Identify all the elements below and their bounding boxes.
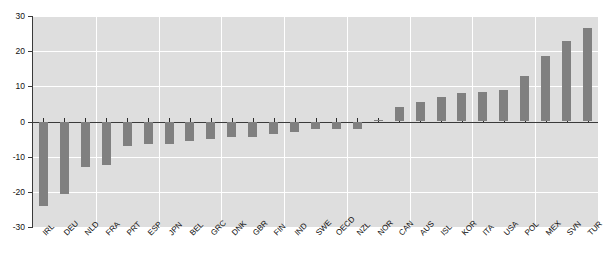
bar — [353, 122, 362, 129]
bar — [227, 122, 236, 138]
x-tick-label: BEL — [188, 220, 205, 237]
x-tick-label: IND — [293, 221, 309, 237]
bar — [416, 102, 425, 121]
bar — [165, 122, 174, 145]
x-tick-label: KOR — [460, 219, 479, 238]
x-tick-label: FRA — [104, 220, 122, 238]
x-tick-label: SWE — [314, 218, 333, 237]
bar-chart: 3020100-10-20-30 IRLDEUNLDFRAPRTESPJPNBE… — [0, 0, 608, 259]
bar — [562, 41, 571, 122]
x-tick-label: DNK — [230, 219, 248, 237]
bar — [478, 92, 487, 122]
x-tick-label: NZL — [355, 220, 372, 237]
x-axis-labels: IRLDEUNLDFRAPRTESPJPNBELGRCDNKGBRFININDS… — [0, 0, 608, 259]
bar — [583, 28, 592, 121]
bar — [457, 93, 466, 121]
x-tick-label: JPN — [167, 220, 184, 237]
bar — [185, 122, 194, 141]
x-tick-label: ISL — [439, 223, 454, 238]
x-tick-label: TUR — [586, 219, 604, 237]
x-tick-label: FIN — [272, 222, 287, 237]
x-tick-label: CAN — [397, 219, 415, 237]
bar — [541, 56, 550, 121]
x-tick-label: MEX — [544, 219, 563, 238]
bar — [248, 122, 257, 138]
bar — [290, 122, 299, 133]
x-tick-label: DEU — [62, 219, 80, 237]
x-tick-label: GBR — [251, 219, 270, 238]
bar — [499, 90, 508, 122]
x-tick-label: ESP — [146, 220, 164, 238]
x-tick-label: IRL — [41, 222, 56, 237]
bar — [395, 107, 404, 121]
bar — [520, 76, 529, 122]
x-tick-label: AUS — [418, 219, 436, 237]
bar — [374, 120, 383, 121]
x-tick-label: PRT — [125, 220, 143, 238]
x-tick-label: USA — [502, 219, 520, 237]
bar — [311, 122, 320, 129]
bar — [144, 122, 153, 145]
bar — [437, 97, 446, 122]
x-tick-label: NOR — [376, 218, 395, 237]
bar — [123, 122, 132, 147]
bar — [81, 122, 90, 168]
bar — [102, 122, 111, 166]
bar — [206, 122, 215, 140]
x-tick-label: ITA — [481, 223, 496, 238]
x-tick-label: SVN — [565, 219, 583, 237]
x-tick-label: OECD — [334, 215, 357, 238]
bar — [39, 122, 48, 206]
x-tick-label: POL — [523, 220, 541, 238]
bar — [60, 122, 69, 194]
bar — [332, 122, 341, 129]
bar — [269, 122, 278, 134]
x-tick-label: NLD — [83, 220, 101, 238]
x-tick-label: GRC — [209, 218, 228, 237]
